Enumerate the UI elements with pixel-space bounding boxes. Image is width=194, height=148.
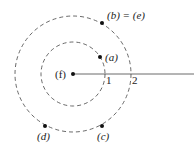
label-b-e: (b) = (e)	[107, 9, 145, 22]
label-f: (f)	[55, 68, 66, 81]
tick-label-2: 2	[132, 74, 138, 86]
label-c: (c)	[97, 130, 110, 143]
tick-label-1: 1	[106, 74, 112, 86]
label-a: (a)	[105, 51, 118, 64]
point-a	[98, 55, 102, 59]
label-d: (d)	[37, 130, 50, 143]
point-c	[100, 124, 104, 128]
point-d	[43, 124, 47, 128]
point-b-e	[100, 21, 104, 25]
complex-plane-diagram: (f) 1 2 (a) (b) = (e) (d) (c)	[0, 0, 194, 148]
point-f	[71, 72, 75, 76]
